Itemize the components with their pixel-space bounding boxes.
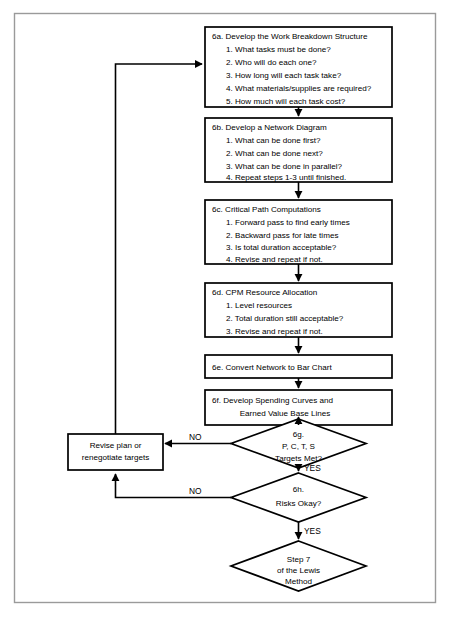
node-critical-path-heading: 6c. Critical Path Computations	[212, 205, 321, 214]
node-revise-plan	[68, 434, 163, 470]
node-critical-path-item-2: 2. Backward pass for late times	[226, 231, 338, 240]
node-risks-okay	[231, 473, 366, 522]
flowchart-canvas: 6a. Develop the Work Breakdown Structure…	[0, 0, 451, 617]
node-risks-okay-line-2: Risks Okay?	[276, 499, 322, 508]
node-resource-allocation-item-2: 2. Total duration still acceptable?	[226, 314, 344, 323]
node-risks-okay-line-1: 6h.	[293, 485, 304, 494]
edge-label-risks-no: NO	[189, 486, 202, 496]
node-revise-plan-line-2: renegotiate targets	[82, 453, 150, 462]
node-network-item-4: 4. Repeat steps 1-3 until finished.	[226, 173, 346, 182]
node-critical-path-item-3: 3. Is total duration acceptable?	[226, 243, 337, 252]
node-step-7-line-1: Step 7	[287, 555, 311, 564]
edge-label-risks-yes: YES	[304, 526, 321, 536]
node-network-item-1: 1. What can be done first?	[226, 136, 321, 145]
connector-risks-no-to-revise	[116, 474, 232, 498]
edge-label-targets-no: NO	[189, 432, 202, 442]
flowchart-figure: 6a. Develop the Work Breakdown Structure…	[0, 0, 451, 617]
node-network-item-3: 3. What can be done in parallel?	[226, 162, 343, 171]
node-step-7-line-2: of the Lewis	[277, 566, 320, 575]
node-targets-met-line-1: 6g.	[293, 430, 304, 439]
node-resource-allocation-item-3: 3. Revise and repeat if not.	[226, 327, 323, 336]
edge-label-targets-yes: YES	[304, 463, 321, 473]
node-network-heading: 6b. Develop a Network Diagram	[212, 123, 327, 132]
node-wbs-item-1: 1. What tasks must be done?	[226, 45, 331, 54]
node-wbs-item-3: 3. How long will each task take?	[226, 71, 342, 80]
node-spending-curves-line-2: Earned Value Base Lines	[240, 409, 331, 418]
node-targets-met-line-3: Targets Met?	[275, 454, 322, 463]
node-targets-met-line-2: P, C, T, S	[282, 442, 316, 451]
node-wbs-item-5: 5. How much will each task cost?	[226, 97, 346, 106]
node-critical-path-item-1: 1. Forward pass to find early times	[226, 218, 350, 227]
node-network-item-2: 2. What can be done next?	[226, 149, 323, 158]
node-wbs-item-2: 2. Who will do each one?	[226, 58, 317, 67]
connector-revise-to-wbs	[116, 64, 203, 434]
node-step-7-line-3: Method	[285, 577, 312, 586]
node-spending-curves-heading: 6f. Develop Spending Curves and	[212, 396, 333, 405]
node-wbs-heading: 6a. Develop the Work Breakdown Structure	[212, 32, 368, 41]
node-resource-allocation-item-1: 1. Level resources	[226, 301, 292, 310]
node-bar-chart-heading: 6e. Convert Network to Bar Chart	[212, 363, 332, 372]
node-wbs-item-4: 4. What materials/supplies are required?	[226, 84, 372, 93]
node-resource-allocation-heading: 6d. CPM Resource Allocation	[212, 288, 317, 297]
node-critical-path-item-4: 4. Revise and repeat if not.	[226, 255, 323, 264]
node-revise-plan-line-1: Revise plan or	[90, 441, 142, 450]
